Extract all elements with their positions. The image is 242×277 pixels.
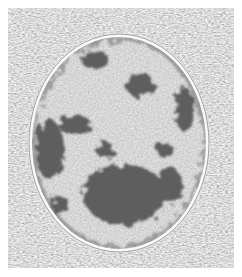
nucleus-figure [0,0,242,277]
nucleus-illustration [0,0,242,277]
